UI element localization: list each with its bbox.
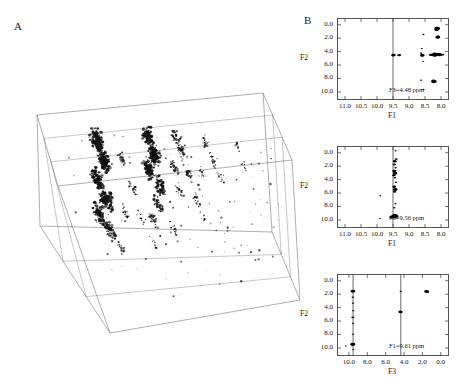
- y-tick-label: 10.0: [307, 343, 333, 351]
- x-tick-label: 8.0: [428, 230, 454, 238]
- x-axis-title: F1: [388, 111, 396, 120]
- slice-annotation: F1=9.61 ppm: [389, 342, 424, 349]
- y-tick-label: 10.0: [307, 215, 333, 223]
- y-tick-label: 8.0: [307, 73, 333, 81]
- slice-annotation: F3=9.56 ppm: [389, 214, 424, 221]
- y-tick-label: 6.0: [307, 316, 333, 324]
- y-tick-label: 0.0: [307, 148, 333, 156]
- y-axis-title: F2: [300, 53, 308, 62]
- plot-plane-f3-448: 11.010.510.09.59.08.58.00.02.04.06.08.01…: [300, 8, 457, 130]
- y-axis-title: F2: [300, 309, 308, 318]
- y-tick-label: 2.0: [307, 289, 333, 297]
- y-tick-label: 10.0: [307, 87, 333, 95]
- y-tick-label: 2.0: [307, 33, 333, 41]
- y-tick-label: 6.0: [307, 60, 333, 68]
- panel-a-3d-spectrum: A: [0, 0, 300, 387]
- y-tick-label: 4.0: [307, 175, 333, 183]
- x-axis-title: F3: [388, 367, 396, 376]
- plot-plane-f1-961: 10.08.06.04.02.00.00.02.04.06.08.010.0F1…: [300, 264, 457, 387]
- y-tick-label: 8.0: [307, 329, 333, 337]
- slice-annotation: F3=4.48 ppm: [389, 86, 424, 93]
- y-tick-label: 4.0: [307, 303, 333, 311]
- y-tick-label: 2.0: [307, 161, 333, 169]
- y-tick-label: 0.0: [307, 276, 333, 284]
- cube-wireframe: [0, 0, 300, 387]
- y-tick-label: 0.0: [307, 20, 333, 28]
- y-tick-label: 8.0: [307, 201, 333, 209]
- y-tick-label: 6.0: [307, 188, 333, 196]
- y-axis-title: F2: [300, 181, 308, 190]
- x-axis-title: F1: [388, 239, 396, 248]
- x-tick-label: 0.0: [428, 358, 454, 366]
- y-tick-label: 4.0: [307, 47, 333, 55]
- plot-plane-f3-956: 11.010.510.09.59.08.58.00.02.04.06.08.01…: [300, 136, 457, 258]
- x-tick-label: 8.0: [428, 102, 454, 110]
